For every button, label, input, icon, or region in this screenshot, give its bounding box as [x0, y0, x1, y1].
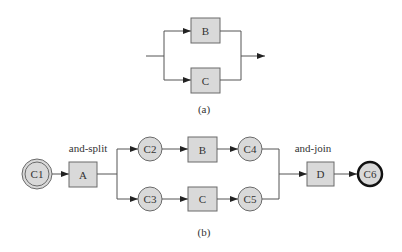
task-c-label: C	[202, 75, 209, 87]
transition-a-label: A	[79, 169, 87, 181]
place-c4-label: C4	[244, 143, 257, 155]
and-join-label: and-join	[295, 142, 332, 154]
diagram-a: B C (a)	[146, 18, 265, 116]
transition-d-label: D	[317, 168, 325, 180]
task-b-label: B	[202, 25, 209, 37]
place-c5-label: C5	[244, 193, 257, 205]
transition-c-label: C	[199, 193, 206, 205]
place-c2-label: C2	[144, 143, 157, 155]
caption-a: (a)	[198, 103, 211, 116]
and-split-label: and-split	[69, 142, 108, 154]
transition-b-label: B	[199, 144, 206, 156]
caption-b: (b)	[198, 226, 211, 239]
diagram-b: C1 and-split A C2 C3 B C C4 C5	[22, 137, 382, 239]
place-c6-label: C6	[364, 168, 377, 180]
workflow-diagram: B C (a) C1 and-split A C2 C3 B	[0, 0, 402, 252]
place-c1-label: C1	[31, 168, 44, 180]
place-c3-label: C3	[144, 193, 157, 205]
